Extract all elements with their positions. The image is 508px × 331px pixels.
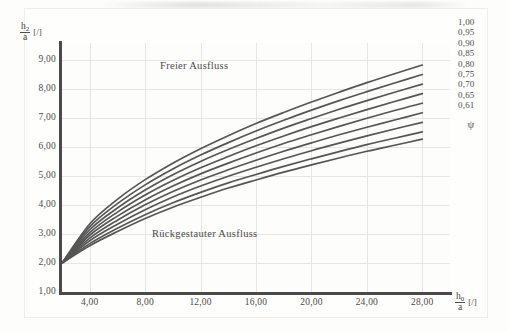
legend-item: 0,95: [458, 27, 492, 37]
legend-item: 0,85: [458, 48, 492, 58]
y-tick-label: 4,00: [10, 199, 56, 209]
y-tick-label: 5,00: [10, 170, 56, 180]
annotation-rueckgestauter-ausfluss: Rückgestauter Ausfluss: [152, 228, 257, 239]
y-tick-label: 8,00: [10, 83, 56, 93]
legend-item: 0,75: [458, 69, 492, 79]
legend-item: 0,65: [458, 90, 492, 100]
y-tick-label: 3,00: [10, 228, 56, 238]
x-axis-tick-labels: 4,008,0012,0016,0020,0024,0028,00: [62, 297, 450, 311]
y-tick-label: 6,00: [10, 141, 56, 151]
x-tick-label: 16,00: [245, 297, 267, 307]
y-axis-title-numerator: h2: [20, 22, 30, 33]
x-axis-title-unit: [/]: [468, 297, 477, 307]
x-axis-title: h0 a [/]: [455, 292, 477, 313]
y-axis-title: h2 a [/]: [20, 22, 42, 43]
x-axis-title-denominator: a: [455, 303, 465, 313]
x-axis-title-fraction: h0 a: [455, 292, 465, 313]
y-axis-tick-labels: 1,002,003,004,005,006,007,008,009,00: [6, 43, 56, 292]
y-tick-label: 7,00: [10, 112, 56, 122]
legend-item: 0,61: [458, 100, 492, 110]
y-tick-label: 1,00: [10, 286, 56, 296]
legend-title-psi: ψ: [458, 119, 484, 130]
x-tick-label: 20,00: [300, 297, 322, 307]
y-tick-label: 2,00: [10, 257, 56, 267]
chart-page: 1,002,003,004,005,006,007,008,009,00 4,0…: [0, 0, 508, 331]
legend-value-list: 1,000,950,900,850,800,750,700,650,61: [458, 17, 492, 111]
x-axis-title-numerator: h0: [455, 292, 465, 303]
legend-item: 0,70: [458, 79, 492, 89]
x-tick-label: 12,00: [189, 297, 211, 307]
x-tick-label: 24,00: [356, 297, 378, 307]
curve-series-group: [62, 43, 450, 292]
y-axis-line: [59, 41, 62, 294]
y-axis-title-unit: [/]: [33, 27, 42, 37]
x-tick-label: 28,00: [411, 297, 433, 307]
legend-item: 0,90: [458, 38, 492, 48]
legend-item: 0,80: [458, 59, 492, 69]
legend: 1,000,950,900,850,800,750,700,650,61 ψ: [458, 17, 492, 130]
y-axis-title-denominator: a: [20, 33, 30, 43]
legend-item: 1,00: [458, 17, 492, 27]
x-axis-line: [59, 292, 452, 295]
plot-area: [62, 43, 450, 292]
annotation-freier-ausfluss: Freier Ausfluss: [160, 60, 228, 71]
x-tick-label: 8,00: [136, 297, 153, 307]
y-axis-title-fraction: h2 a: [20, 22, 30, 43]
x-tick-label: 4,00: [81, 297, 98, 307]
y-tick-label: 9,00: [10, 54, 56, 64]
